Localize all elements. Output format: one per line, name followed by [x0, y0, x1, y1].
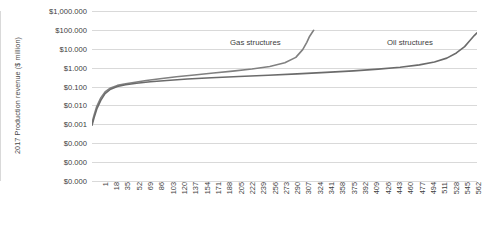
y-axis-title: 2017 Production revenue ($ million): [13, 11, 22, 181]
y-tick-label: $1,000.000: [49, 7, 87, 16]
x-tick-label: 290: [293, 182, 302, 194]
x-axis-tick-labels: 1183552698610312013715417118820522223925…: [92, 182, 477, 234]
x-tick-label: 409: [372, 182, 381, 194]
x-tick-label: 341: [327, 182, 336, 194]
x-tick-label: 494: [429, 182, 438, 194]
x-tick-label: 307: [304, 182, 313, 194]
y-tick-label: $0.010: [64, 101, 87, 110]
x-tick-label: 273: [282, 182, 291, 194]
series-label-gas: Gas structures: [228, 38, 283, 47]
x-tick-label: 188: [225, 182, 234, 194]
plot-area: [92, 11, 477, 181]
x-tick-label: 1: [101, 182, 110, 186]
x-tick-label: 222: [248, 182, 257, 194]
x-tick-label: 103: [169, 182, 178, 194]
x-tick-label: 528: [452, 182, 461, 194]
x-tick-label: 358: [338, 182, 347, 194]
y-tick-label: $100.000: [55, 25, 87, 34]
series-lines: [92, 11, 477, 181]
x-tick-label: 477: [418, 182, 427, 194]
y-tick-label: $0.100: [64, 82, 87, 91]
y-axis-line: [0, 11, 1, 181]
series-label-oil: Oil structures: [385, 38, 435, 47]
x-tick-label: 69: [146, 182, 155, 190]
x-tick-label: 35: [123, 182, 132, 190]
x-tick-label: 137: [191, 182, 200, 194]
x-tick-label: 205: [237, 182, 246, 194]
x-tick-label: 460: [406, 182, 415, 194]
x-tick-label: 392: [361, 182, 370, 194]
y-axis-tick-labels: $1,000.000$100.000$10.000$1.000$0.100$0.…: [28, 0, 90, 234]
x-tick-label: 324: [316, 182, 325, 194]
x-tick-label: 375: [350, 182, 359, 194]
x-tick-label: 239: [259, 182, 268, 194]
x-tick-label: 18: [112, 182, 121, 190]
y-tick-label: $0.000: [64, 158, 87, 167]
x-tick-label: 171: [214, 182, 223, 194]
x-tick-label: 120: [180, 182, 189, 194]
x-tick-label: 562: [474, 182, 483, 194]
chart-container: 2017 Production revenue ($ million) $1,0…: [0, 0, 485, 234]
y-tick-label: $0.000: [64, 177, 87, 186]
y-tick-label: $0.000: [64, 139, 87, 148]
y-tick-label: $1.000: [64, 63, 87, 72]
x-tick-label: 443: [395, 182, 404, 194]
x-tick-label: 52: [135, 182, 144, 190]
x-tick-label: 545: [463, 182, 472, 194]
y-tick-label: $0.001: [64, 120, 87, 129]
y-tick-label: $10.000: [60, 44, 87, 53]
x-tick-label: 511: [440, 182, 449, 194]
x-tick-label: 86: [157, 182, 166, 190]
x-tick-label: 256: [271, 182, 280, 194]
x-tick-label: 426: [384, 182, 393, 194]
x-tick-label: 154: [203, 182, 212, 194]
